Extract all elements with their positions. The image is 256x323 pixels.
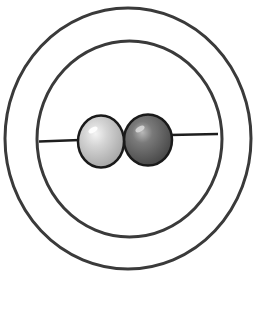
atom-diagram xyxy=(0,0,256,323)
particle-light xyxy=(78,116,124,168)
wire-left xyxy=(39,140,80,142)
wire-right xyxy=(170,134,218,135)
particle-dark xyxy=(124,115,172,166)
